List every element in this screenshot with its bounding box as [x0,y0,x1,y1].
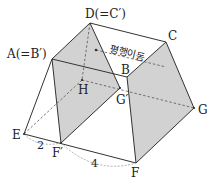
translation-annotation: 평행이동 [109,43,147,62]
label-B: B [121,63,130,77]
length-2: 2 [37,139,44,152]
label-Fp: F′ [52,146,63,160]
label-A: A(=B′) [6,47,47,61]
label-F: F [131,166,139,180]
label-C: C [168,29,177,43]
label-G: G [198,103,208,117]
label-E: E [12,128,21,142]
label-H: H [78,83,88,97]
translation-diagram: D(=C′) C A(=B′) B H G′ G E F′ F 2 4 평행이동 [0,0,216,182]
label-D: D(=C′) [85,7,126,21]
label-Gp: G′ [116,93,129,107]
length-4: 4 [91,157,98,170]
translation-marker [95,49,98,52]
